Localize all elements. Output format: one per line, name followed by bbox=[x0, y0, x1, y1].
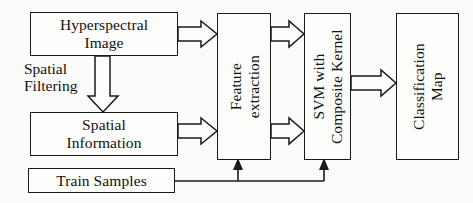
arrow-feature-extraction-to-svm-lower bbox=[271, 118, 304, 144]
node-svm-composite-kernel[interactable]: SVM with Composite Kernel bbox=[304, 13, 351, 160]
node-feature-extraction-label: Feature extraction bbox=[226, 55, 261, 118]
arrow-spatial-information-to-feature-extraction bbox=[178, 118, 217, 144]
node-hyperspectral-image-label: Hyperspectral Image bbox=[60, 16, 148, 51]
node-svm-composite-kernel-label: SVM with Composite Kernel bbox=[310, 29, 345, 144]
node-feature-extraction[interactable]: Feature extraction bbox=[217, 13, 271, 160]
node-hyperspectral-image[interactable]: Hyperspectral Image bbox=[30, 12, 178, 56]
node-spatial-information-label: Spatial Information bbox=[66, 116, 141, 151]
flowchart-diagram: Hyperspectral Image Spatial Information … bbox=[0, 0, 473, 203]
edge-label-spatial-filtering: Spatial Filtering bbox=[24, 60, 102, 95]
node-spatial-information[interactable]: Spatial Information bbox=[30, 112, 178, 156]
arrow-feature-extraction-to-svm-upper bbox=[271, 21, 304, 47]
node-classification-map[interactable]: Classification Map bbox=[396, 13, 459, 160]
node-train-samples[interactable]: Train Samples bbox=[28, 168, 175, 193]
arrow-hyperspectral-to-feature-extraction bbox=[178, 21, 217, 47]
node-train-samples-label: Train Samples bbox=[56, 172, 147, 190]
node-classification-map-label: Classification Map bbox=[410, 43, 445, 130]
arrow-svm-to-classification-map bbox=[351, 70, 396, 96]
